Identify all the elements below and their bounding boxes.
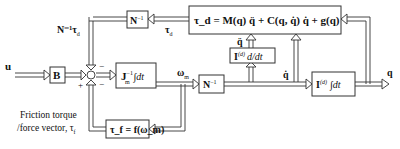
block-dynamics: τ_d = M(q) q̈ + C(q, q̇) q̇ + g(q): [189, 6, 341, 34]
block-jm-integrator: J−1m∫dt: [116, 63, 156, 88]
signal-qdot: q̇: [283, 69, 289, 80]
block-integrator: I(d)∫dt: [312, 72, 355, 96]
minus-sign-bottom: −: [99, 79, 104, 89]
block-derivative: I(d)d/dt: [230, 48, 275, 63]
friction-label-line2: /force vector, τf: [17, 123, 75, 135]
arrow-jm-to-ninv: [156, 79, 199, 89]
arrow-q-output: [355, 79, 389, 89]
arrow-ninv-to-integ: [224, 79, 312, 89]
arrow-ninv-to-junction: [86, 17, 127, 70]
arrow-u-to-b: [15, 70, 50, 80]
signal-tau-d: τd: [165, 24, 173, 37]
arrow-b-to-junction: [65, 70, 86, 80]
block-friction: τ_f = f(ω_m): [106, 120, 164, 138]
block-diagram: + − − B J−1m∫dt N−1 N−1 τ_d = M(q) q̈ + …: [0, 0, 400, 149]
signal-q: q: [387, 67, 393, 78]
block-ninv-top: N−1: [127, 11, 148, 28]
arrow-qdot-to-deriv: [246, 62, 256, 82]
signal-u: u: [5, 60, 11, 72]
signal-qddot: q̈: [237, 36, 243, 47]
arrow-qdot-to-dynamics: [291, 34, 301, 82]
minus-sign-top: −: [99, 61, 104, 71]
friction-label-line1: Friction torque: [20, 110, 77, 120]
signal-omega-m: ωm: [177, 67, 189, 80]
arrow-qddot-to-dynamics: [246, 34, 256, 48]
svg-text:τ_f = f(ω_m): τ_f = f(ω_m): [110, 124, 164, 136]
arrow-taud-to-ninv: [148, 14, 189, 24]
svg-text:τ_d = M(q) q̈ + C(q, q̇) q̇ +: τ_d = M(q) q̈ + C(q, q̇) q̇ + g(q): [194, 14, 340, 27]
svg-text:B: B: [53, 69, 61, 81]
block-ninv-mid: N−1: [199, 75, 224, 93]
block-b: B: [50, 67, 65, 83]
signal-ninv-taud: N⁻¹τd: [57, 24, 80, 37]
plus-sign: +: [78, 80, 83, 90]
